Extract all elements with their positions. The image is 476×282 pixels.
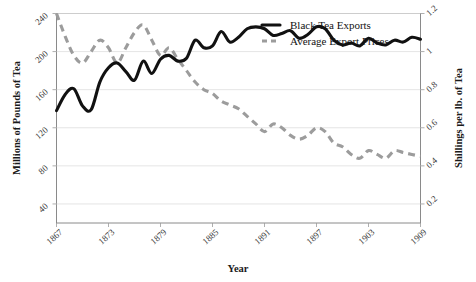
x-tick-label: 1891 <box>252 227 272 246</box>
y-left-tick-label: 160 <box>33 86 50 103</box>
y-right-tick-label: 0.2 <box>424 193 439 208</box>
x-tickmarks-group <box>57 223 421 227</box>
x-axis-title: Year <box>228 263 249 274</box>
y-left-tick-label: 120 <box>33 124 50 141</box>
y-right-tick-label: 1.2 <box>424 3 439 18</box>
x-tick-label: 1897 <box>304 227 324 247</box>
x-tick-label: 1873 <box>96 227 116 247</box>
y-right-tick-label: 0.6 <box>424 117 439 132</box>
x-tick-label: 1903 <box>356 227 376 247</box>
chart-container: 4080120160200240 0.20.40.60.811.2 186718… <box>0 0 476 282</box>
y-right-tick-label: 0.8 <box>424 79 439 94</box>
x-tick-label: 1909 <box>408 227 428 247</box>
y-axis-right-title: Shillings per lb. of Tea <box>453 67 464 168</box>
y-left-tick-label: 240 <box>33 10 50 27</box>
y-left-tick-label: 40 <box>36 201 50 215</box>
y-right-tick-label: 0.4 <box>424 155 439 170</box>
y-left-tick-label: 80 <box>36 163 50 177</box>
y-right-tick-label: 1 <box>424 46 434 56</box>
x-tick-label: 1879 <box>148 227 168 247</box>
y-right-tickmarks-group <box>421 14 425 204</box>
legend-label-average-export-prices: Average Export Prices <box>290 35 389 47</box>
x-tick-label: 1885 <box>200 227 220 247</box>
legend-label-black-tea-exports: Black Tea Exports <box>290 19 371 31</box>
y-left-tick-label: 200 <box>33 48 50 65</box>
y-right-tick-labels: 0.20.40.60.811.2 <box>424 3 439 208</box>
y-left-tick-labels: 4080120160200240 <box>33 10 50 214</box>
y-axis-left-title: Millions of Pounds of Tea <box>11 60 22 175</box>
x-tick-label: 1867 <box>44 227 64 247</box>
x-tick-labels: 18671873187918851891189719031909 <box>44 227 428 247</box>
tea-exports-line-chart: 4080120160200240 0.20.40.60.811.2 186718… <box>0 0 476 282</box>
